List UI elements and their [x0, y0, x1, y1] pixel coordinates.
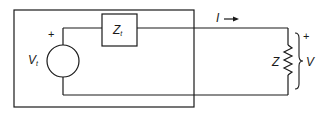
load-polarity-plus: +: [303, 30, 309, 42]
source-polarity-plus: +: [48, 28, 54, 40]
load-resistor-icon: [284, 45, 292, 75]
voltage-source-icon: [47, 45, 79, 77]
current-label: I: [216, 11, 220, 25]
load-voltage-brace-icon: [295, 33, 303, 89]
circuit-diagram: Zt + Vt I Z + V: [0, 0, 325, 113]
load-voltage-label: V: [306, 55, 315, 69]
load-impedance-label: Z: [271, 55, 280, 69]
current-arrowhead-icon: [233, 17, 239, 22]
source-voltage-label: Vt: [28, 53, 39, 67]
